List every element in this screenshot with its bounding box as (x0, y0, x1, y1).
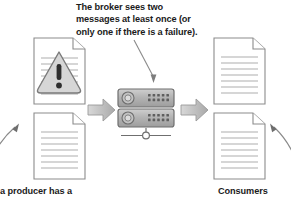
diagram-canvas: The broker sees two messages at least on… (0, 0, 291, 205)
consumer-caption-text: Consumers (218, 185, 291, 197)
consumer-document-top (213, 37, 267, 105)
broker-to-consumer-arrow (181, 98, 209, 126)
broker-callout-text: The broker sees two messages at least on… (76, 1, 208, 38)
producer-caption-text: a producer has a (0, 185, 130, 197)
bottom-left-pointer-arrow (0, 118, 26, 180)
broker-network-stand (121, 128, 171, 139)
broker-server-rack (115, 86, 177, 144)
bottom-right-pointer-arrow (268, 118, 291, 180)
producer-document-with-warning (33, 37, 87, 105)
broker-unit-top (118, 89, 174, 107)
producer-to-broker-arrow (88, 98, 116, 126)
callout-to-broker-arrow (132, 38, 166, 88)
producer-document-plain (33, 112, 87, 180)
broker-unit-bottom (118, 109, 174, 127)
consumer-document-bottom (213, 112, 267, 180)
